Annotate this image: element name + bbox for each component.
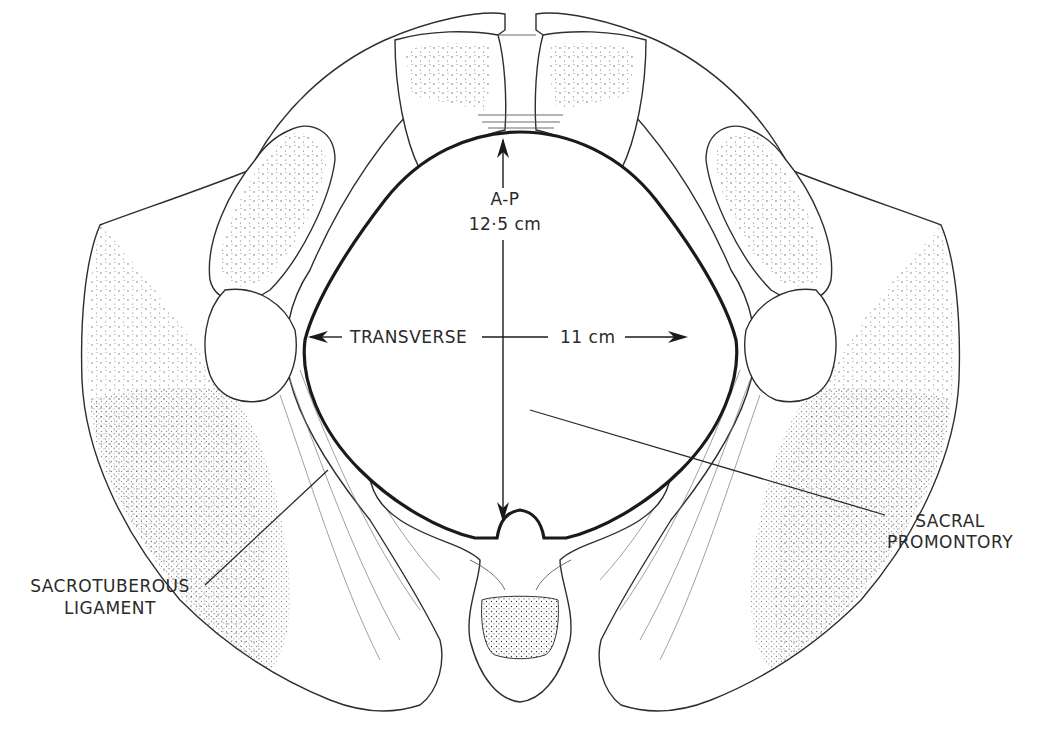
transverse-value: 11 cm [560, 327, 615, 347]
sacral-promontory-label-line1: SACRAL [915, 511, 985, 531]
sacrotuberous-label-line1: SACROTUBEROUS [30, 576, 190, 596]
sacral-promontory-label-line2: PROMONTORY [887, 532, 1013, 552]
sacrotuberous-label-line2: LIGAMENT [64, 598, 156, 618]
transverse-label: TRANSVERSE [349, 327, 467, 347]
ap-value: 12·5 cm [469, 214, 542, 234]
ap-label: A-P [490, 189, 519, 209]
pelvic-inlet-diagram: A-P 12·5 cm TRANSVERSE 11 cm SACRAL PROM… [0, 0, 1041, 744]
